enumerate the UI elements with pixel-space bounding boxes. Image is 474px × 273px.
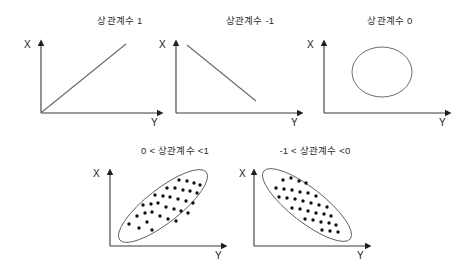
trend-line-negative-perfect [187, 45, 256, 101]
panel-correlation-1 [41, 44, 158, 113]
scatter-cloud-circle [352, 47, 412, 97]
scatter-point [135, 214, 138, 217]
scatter-point [274, 186, 277, 189]
scatter-point [195, 191, 198, 194]
scatter-point [150, 210, 153, 213]
scatter-point [319, 220, 322, 223]
scatter-point [143, 211, 146, 214]
scatter-point [141, 203, 144, 206]
scatter-point [309, 201, 312, 204]
scatter-point [303, 217, 306, 220]
scatter-point [285, 196, 288, 199]
scatter-point [328, 229, 331, 232]
panel-correlation-negative [253, 158, 366, 253]
scatter-point [158, 214, 161, 217]
scatter-point [198, 183, 201, 186]
scatter-point [161, 194, 164, 197]
scatter-point [185, 179, 188, 182]
scatter-point [306, 209, 309, 212]
scatter-point [137, 226, 140, 229]
scatter-cloud-positive [109, 159, 217, 254]
scatter-point [184, 199, 187, 202]
scatter-point [164, 205, 167, 208]
scatter-point [127, 222, 130, 225]
scatter-point [290, 206, 293, 209]
scatter-point [322, 212, 325, 215]
scatter-point [314, 194, 317, 197]
scatter-point [174, 219, 177, 222]
scatter-point [320, 228, 323, 231]
scatter-cloud-negative [253, 158, 361, 253]
scatter-point [277, 195, 280, 198]
scatter-point [149, 202, 152, 205]
scatter-point [168, 195, 171, 198]
scatter-point [297, 179, 300, 182]
panel-correlation-0 [324, 45, 446, 113]
scatter-point [179, 209, 182, 212]
plot-canvas [0, 0, 474, 273]
scatter-point [317, 203, 320, 206]
scatter-point [298, 207, 301, 210]
scatter-point [289, 176, 292, 179]
correlation-figure: 상관계수 1 상관계수 -1 상관계수 0 0 < 상관계수 <1 -1 < 상… [0, 0, 474, 273]
scatter-point [145, 220, 148, 223]
scatter-point [282, 187, 285, 190]
scatter-point [311, 218, 314, 221]
scatter-point [188, 189, 191, 192]
scatter-point [334, 223, 337, 226]
scatter-point [329, 214, 332, 217]
scatter-point [153, 193, 156, 196]
scatter-point [298, 190, 301, 193]
scatter-point [325, 205, 328, 208]
scatter-point [314, 211, 317, 214]
scatter-point [301, 199, 304, 202]
scatter-point [150, 228, 153, 231]
panel-correlation-minus-1 [176, 45, 298, 113]
scatter-point [156, 201, 159, 204]
scatter-point [293, 197, 296, 200]
scatter-point [281, 178, 284, 181]
scatter-point [166, 217, 169, 220]
scatter-point [177, 178, 180, 181]
scatter-point [327, 221, 330, 224]
panel-correlation-positive [109, 159, 222, 254]
scatter-point [173, 186, 176, 189]
scatter-point [336, 230, 339, 233]
scatter-point [172, 207, 175, 210]
scatter-point [192, 181, 195, 184]
scatter-point [290, 188, 293, 191]
scatter-point [306, 191, 309, 194]
scatter-point [304, 181, 307, 184]
scatter-point [186, 211, 189, 214]
scatter-point [165, 186, 168, 189]
scatter-points-negative [274, 176, 339, 233]
scatter-point [176, 197, 179, 200]
scatter-point [191, 201, 194, 204]
trend-line-positive-perfect [42, 44, 126, 112]
scatter-point [181, 188, 184, 191]
